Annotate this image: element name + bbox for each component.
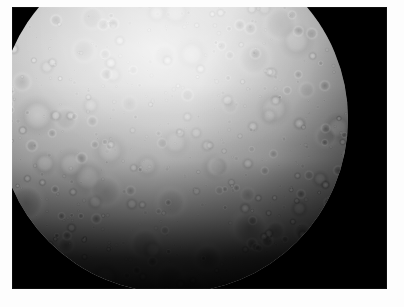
limb-highlight xyxy=(12,7,348,289)
crater-texture-fine xyxy=(12,7,348,289)
cratered-highlands xyxy=(12,7,348,289)
image-canvas: Mercury full-disk mosaic, heavily crater… xyxy=(0,0,404,307)
terminator-shadow xyxy=(12,7,348,289)
planet-disk-mercury xyxy=(12,7,348,289)
crater-texture-coarse xyxy=(12,7,348,289)
right-limb-shading xyxy=(12,7,348,289)
bright-ray-crater xyxy=(12,7,348,289)
photo-field xyxy=(12,7,387,289)
